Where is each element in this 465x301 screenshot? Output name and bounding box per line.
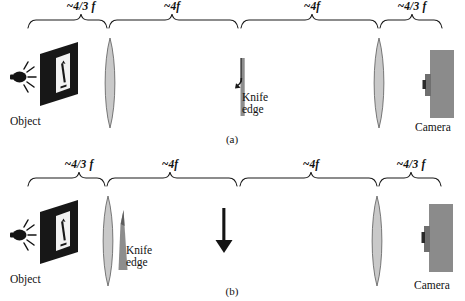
object-plate xyxy=(36,42,84,106)
camera-b xyxy=(421,204,459,272)
optical-setup-figure: ~4/3 f ~4f ~4f ~4/3 f xyxy=(0,0,465,301)
panel-tag-a: (a) xyxy=(226,133,238,145)
distance-braces-b xyxy=(0,172,465,190)
panel-tag-b: (b) xyxy=(226,285,239,297)
knife-edge-label-b-line2: edge xyxy=(126,257,152,269)
distance-label-a-3: ~4f xyxy=(304,0,321,12)
panel-b: ~4/3 f ~4f ~4f ~4/3 f xyxy=(0,152,465,301)
optical-bench-a: Object Knife xyxy=(0,34,465,146)
distance-label-b-4: ~4/3 f xyxy=(396,158,425,170)
distance-label-b-1: ~4/3 f xyxy=(64,158,93,170)
distance-label-b-3: ~4f xyxy=(303,158,320,170)
knife-edge-label-a: Knife edge xyxy=(242,92,268,116)
camera-a xyxy=(422,50,460,118)
camera-label-b: Camera xyxy=(414,280,450,292)
object-label-b: Object xyxy=(10,274,41,286)
distance-label-a-4: ~4/3 f xyxy=(397,0,426,12)
knife-edge-label-b: Knife edge xyxy=(126,245,152,269)
distance-label-b-2: ~4f xyxy=(162,158,179,170)
distance-braces-a xyxy=(0,14,465,32)
object-plate-b xyxy=(36,200,84,264)
lens-1-a xyxy=(99,38,121,128)
knife-edge-label-a-line2: edge xyxy=(242,104,268,116)
camera-label-a: Camera xyxy=(415,122,451,134)
lens-2-a xyxy=(368,38,390,128)
distance-label-a-2: ~4f xyxy=(164,0,181,12)
panel-a: ~4/3 f ~4f ~4f ~4/3 f xyxy=(0,0,465,152)
distance-label-a-1: ~4/3 f xyxy=(66,0,95,12)
lens-2-b xyxy=(366,196,388,286)
beam-down-arrow-b xyxy=(213,208,235,254)
object-label-a: Object xyxy=(10,116,41,128)
